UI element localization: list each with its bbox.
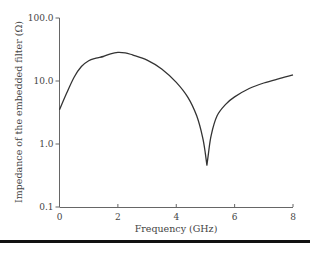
- x-tick-label: 2: [115, 212, 121, 222]
- x-tick-label: 0: [57, 212, 63, 222]
- y-tick-label: 10.0: [33, 76, 53, 86]
- impedance-chart: 0.11.010.0100.0 02468 Frequency (GHz) Im…: [0, 0, 310, 253]
- x-tick-label: 4: [173, 212, 179, 222]
- y-tick-label: 1.0: [39, 139, 54, 149]
- y-axis-title: Impedance of the embedded filter (Ω): [13, 21, 24, 203]
- x-tick-label: 6: [232, 212, 238, 222]
- x-axis-title: Frequency (GHz): [135, 223, 218, 234]
- y-tick-label: 0.1: [39, 202, 53, 212]
- y-ticks: 0.11.010.0100.0: [28, 13, 60, 212]
- bottom-rule: [0, 240, 310, 243]
- impedance-curve: [60, 52, 294, 165]
- x-ticks: 02468: [57, 204, 297, 222]
- axes: [60, 18, 294, 208]
- y-tick-label: 100.0: [28, 13, 54, 23]
- x-tick-label: 8: [290, 212, 296, 222]
